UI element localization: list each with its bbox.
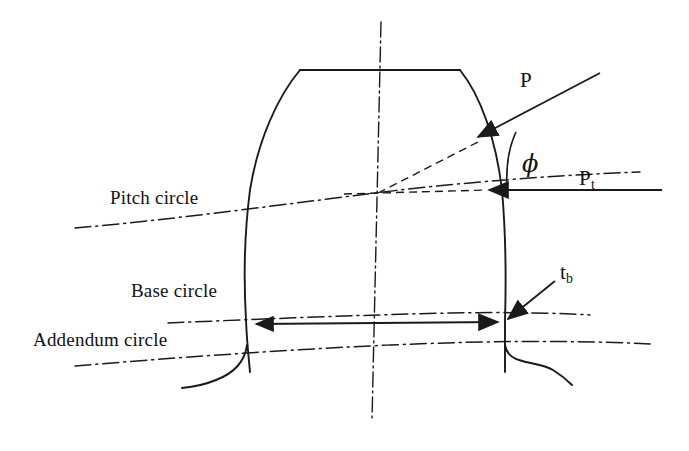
pitch-circle-label: Pitch circle — [110, 188, 198, 207]
addendum-circle-label: Addendum circle — [33, 330, 167, 349]
pressure-angle-label-phi: ϕ — [522, 152, 539, 176]
tangential-force-label-base: P — [579, 166, 591, 190]
tangential-force-label-subscript: t — [591, 177, 595, 192]
normal-force-label-P: P — [520, 70, 532, 91]
tangential-force-label-Pt: Pt — [579, 168, 595, 192]
base-thickness-label-tb: tb — [560, 262, 573, 286]
base-thickness-label-subscript: b — [566, 271, 573, 286]
base-circle-label: Base circle — [131, 281, 217, 300]
gear-tooth-diagram — [0, 0, 689, 451]
